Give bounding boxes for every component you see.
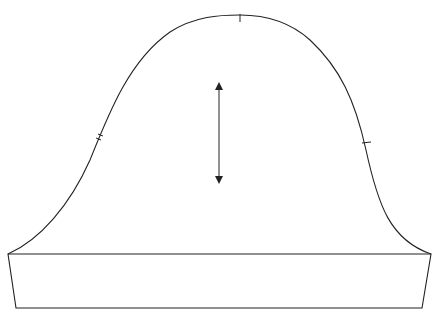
- cuff-band-outline: [8, 254, 431, 308]
- front-notch: [362, 142, 371, 143]
- pattern-diagram: [0, 0, 438, 321]
